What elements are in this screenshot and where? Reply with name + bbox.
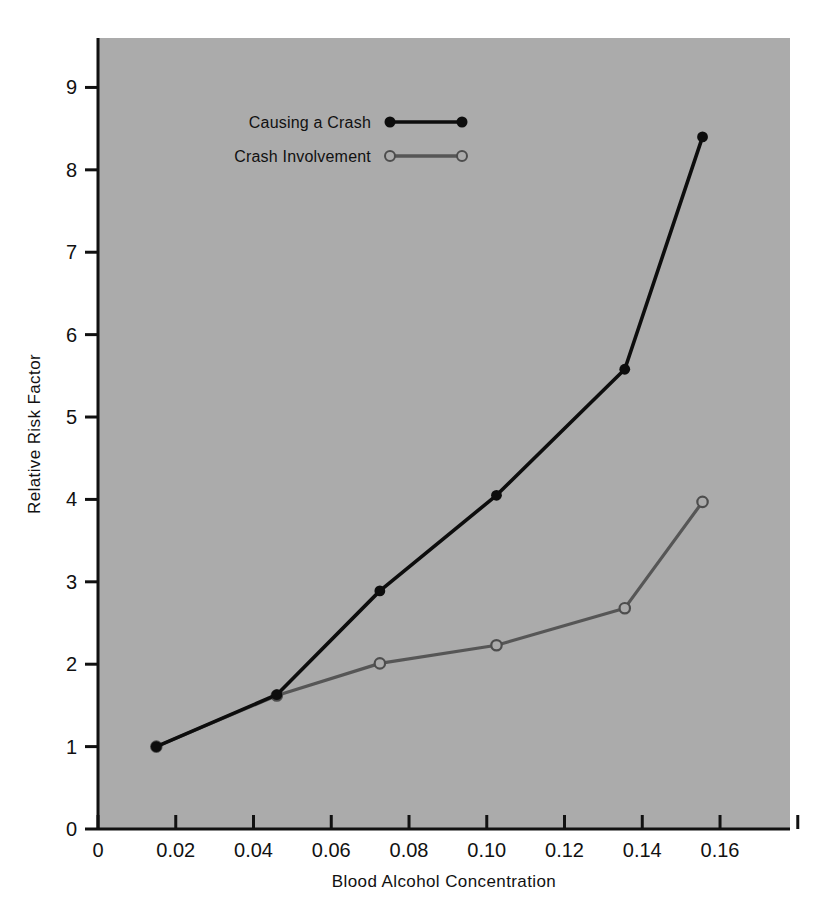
legend-marker-end-causing-a-crash	[457, 117, 468, 128]
chart-figure: 0123456789 00.020.040.060.080.100.120.14…	[0, 0, 825, 916]
x-tick-label-0: 0	[92, 839, 103, 861]
y-tick-label-2: 2	[66, 653, 77, 675]
legend-marker-end-crash-involvement	[457, 151, 467, 161]
legend-label-causing-a-crash: Causing a Crash	[249, 114, 371, 131]
y-tick-label-5: 5	[66, 406, 77, 428]
data-point-crash-involvement-3	[491, 640, 501, 650]
legend-label-crash-involvement: Crash Involvement	[234, 148, 371, 165]
y-tick-label-0: 0	[66, 818, 77, 840]
y-tick-label-4: 4	[66, 488, 77, 510]
legend-marker-start-causing-a-crash	[385, 117, 396, 128]
x-axis-title: Blood Alcohol Concentration	[332, 872, 556, 891]
data-point-causing-a-crash-3	[491, 490, 502, 501]
y-axis-title: Relative Risk Factor	[25, 354, 44, 514]
y-tick-label-7: 7	[66, 241, 77, 263]
data-point-causing-a-crash-0	[151, 741, 162, 752]
y-tick-label-1: 1	[66, 736, 77, 758]
data-point-causing-a-crash-4	[619, 364, 630, 375]
x-tick-label-0.08: 0.08	[390, 839, 429, 861]
x-tick-label-0.04: 0.04	[234, 839, 273, 861]
x-tick-label-0.10: 0.10	[467, 839, 506, 861]
y-tick-label-9: 9	[66, 76, 77, 98]
legend-marker-start-crash-involvement	[385, 151, 395, 161]
x-tick-label-0.12: 0.12	[545, 839, 584, 861]
x-tick-label-0.14: 0.14	[623, 839, 662, 861]
y-tick-label-6: 6	[66, 324, 77, 346]
x-tick-label-0.06: 0.06	[312, 839, 351, 861]
y-tick-label-3: 3	[66, 571, 77, 593]
y-tick-label-8: 8	[66, 159, 77, 181]
data-point-crash-involvement-4	[620, 603, 630, 613]
data-point-crash-involvement-5	[697, 497, 707, 507]
x-axis-tick-labels: 00.020.040.060.080.100.120.140.16	[92, 839, 739, 861]
x-tick-label-0.16: 0.16	[701, 839, 740, 861]
data-point-causing-a-crash-2	[374, 585, 385, 596]
data-point-causing-a-crash-5	[697, 131, 708, 142]
data-point-causing-a-crash-1	[271, 689, 282, 700]
x-tick-label-0.02: 0.02	[156, 839, 195, 861]
data-point-crash-involvement-2	[375, 658, 385, 668]
